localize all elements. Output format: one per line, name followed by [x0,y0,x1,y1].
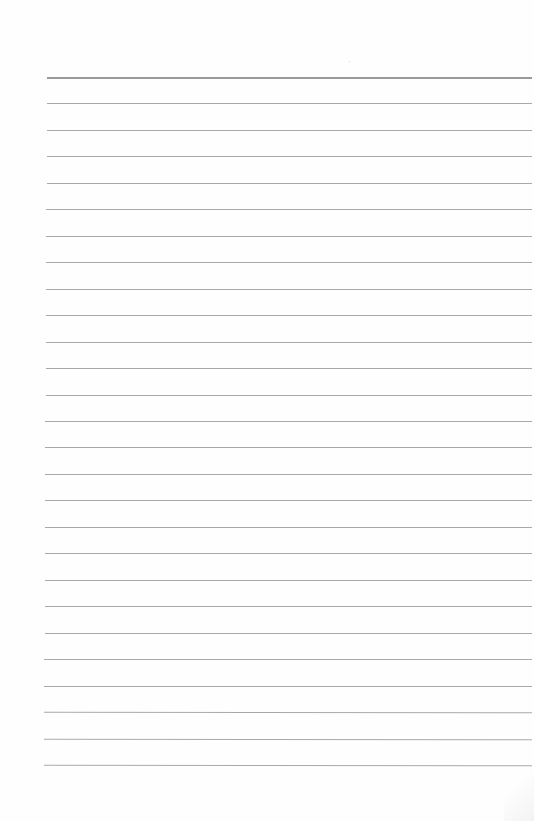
ruled-line [47,156,532,157]
ruled-line [45,421,532,422]
ruled-line [45,580,532,581]
ruled-line [47,77,532,79]
ruled-line [45,553,532,554]
ruled-line [47,103,532,104]
ruled-line [44,765,532,766]
lined-paper-page [0,0,534,821]
ruled-line [45,527,532,528]
ruled-line [44,659,532,660]
ruled-line [47,130,532,131]
ruled-line [45,474,532,475]
ruled-line [46,395,532,396]
ruled-line [46,315,532,316]
ruled-line [45,500,532,501]
ruled-line [44,686,532,687]
ruled-line [46,236,532,237]
ruled-line [44,739,532,740]
ruled-line [46,368,532,369]
ruled-line [46,209,532,210]
ruled-line [46,342,532,343]
ruled-line [46,262,532,263]
ruled-line [46,289,532,290]
page-corner-shadow [504,761,534,821]
ruled-line [47,183,532,184]
paper-speck [349,61,350,62]
ruled-line [45,606,532,607]
ruled-line [45,447,532,448]
ruled-line [44,712,532,713]
ruled-line [45,633,532,634]
